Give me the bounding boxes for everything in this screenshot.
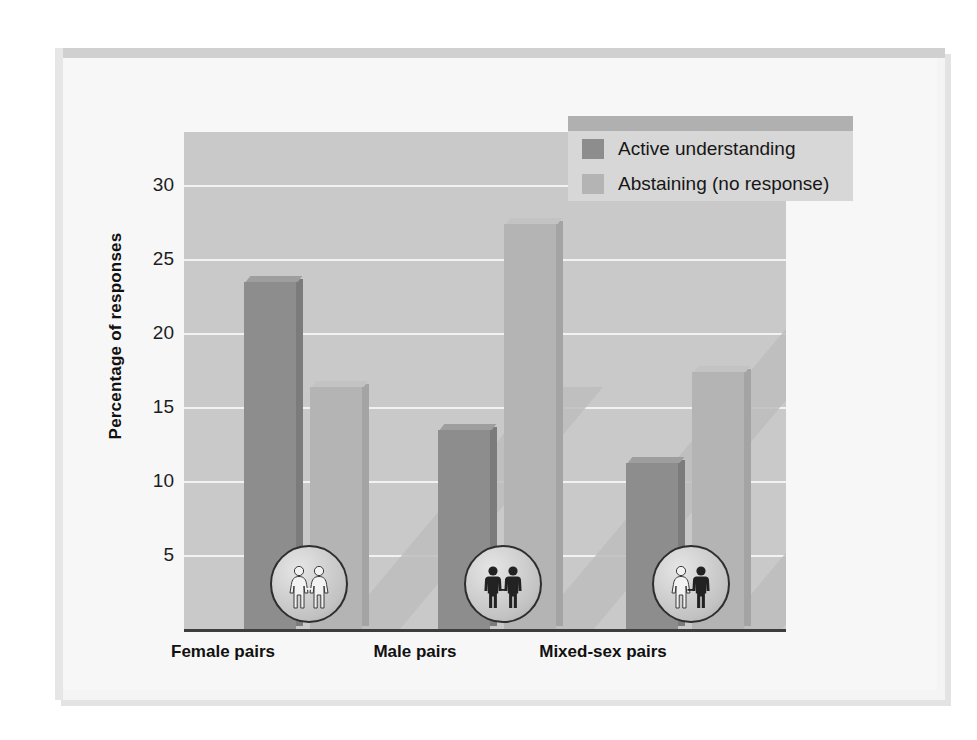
legend-item-active-understanding[interactable]: Active understanding (568, 131, 853, 166)
y-tick-10: 10 (114, 470, 174, 492)
female-female-pair-icon (270, 545, 348, 623)
y-tick-20: 20 (114, 322, 174, 344)
y-tick-25: 25 (114, 248, 174, 270)
female-male-pair-icon (652, 545, 730, 623)
male-male-pair-icon (464, 545, 542, 623)
y-tick-30: 30 (114, 174, 174, 196)
figure-frame: Percentage of responses 30 25 20 15 10 5 (55, 48, 945, 700)
x-axis-line (184, 629, 786, 632)
frame-left-band (55, 48, 63, 700)
legend-item-abstaining[interactable]: Abstaining (no response) (568, 166, 853, 201)
x-label-female-pairs: Female pairs (123, 642, 323, 662)
frame-top-band (55, 48, 945, 58)
y-tick-15: 15 (114, 396, 174, 418)
bar-group-male-pairs (416, 132, 606, 629)
plot-area (184, 132, 786, 629)
bar-group-mixed-sex-pairs (604, 132, 786, 629)
legend-cap (568, 116, 853, 131)
legend-swatch-icon (582, 174, 604, 194)
bar-side (362, 384, 369, 626)
legend-label: Active understanding (618, 138, 795, 160)
legend-label: Abstaining (no response) (618, 173, 829, 195)
x-label-male-pairs: Male pairs (315, 642, 515, 662)
figure-inner: Percentage of responses 30 25 20 15 10 5 (63, 58, 937, 690)
legend-swatch-icon (582, 139, 604, 159)
bar-side (556, 221, 563, 626)
x-label-mixed-sex-pairs: Mixed-sex pairs (503, 642, 703, 662)
bar-group-female-pairs (222, 132, 412, 629)
y-tick-5: 5 (114, 544, 174, 566)
bar-side (744, 369, 751, 626)
y-axis-tick-column: 30 25 20 15 10 5 (108, 132, 174, 629)
chart-legend: Active understanding Abstaining (no resp… (568, 131, 853, 201)
